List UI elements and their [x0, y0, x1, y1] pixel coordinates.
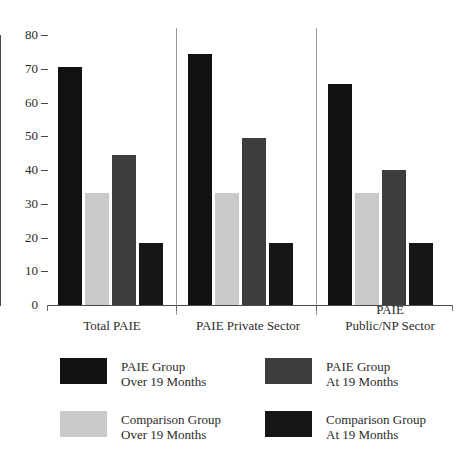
bar	[242, 138, 266, 305]
x-axis-tick-1	[176, 305, 177, 311]
bar	[355, 193, 379, 305]
category-label-paie-private-sector: PAIE Private Sector	[186, 318, 310, 334]
legend-swatch-paie-group-at-19-months	[265, 358, 312, 384]
bar	[215, 193, 239, 305]
legend-item-comparison-group-at-19-months: Comparison Group At 19 Months	[265, 411, 426, 442]
bars-layer	[0, 0, 468, 305]
bar	[382, 170, 406, 305]
bar	[409, 243, 433, 305]
bar	[85, 193, 109, 305]
chart-legend: PAIE Group Over 19 Months PAIE Group At …	[60, 358, 460, 454]
legend-label-paie-group-over-19-months: PAIE Group Over 19 Months	[121, 358, 206, 389]
legend-label-comparison-group-at-19-months: Comparison Group At 19 Months	[326, 411, 426, 442]
legend-item-paie-group-over-19-months: PAIE Group Over 19 Months	[60, 358, 206, 389]
legend-label-paie-group-at-19-months: PAIE Group At 19 Months	[326, 358, 398, 389]
legend-label-comparison-group-over-19-months: Comparison Group Over 19 Months	[121, 411, 221, 442]
bar	[58, 67, 82, 305]
bar	[112, 155, 136, 305]
x-axis-tick-2	[316, 305, 317, 311]
bar	[139, 243, 163, 305]
x-axis-tick-start	[47, 305, 48, 311]
legend-swatch-comparison-group-at-19-months	[265, 411, 312, 437]
bar	[328, 84, 352, 305]
legend-swatch-paie-group-over-19-months	[60, 358, 107, 384]
category-label-paie-public-np-sector: PAIE Public/NP Sector	[326, 302, 454, 334]
bar	[188, 54, 212, 305]
bar	[269, 243, 293, 305]
bar-chart-figure: 80706050403020100 Total PAIE PAIE Privat…	[0, 0, 468, 458]
legend-item-paie-group-at-19-months: PAIE Group At 19 Months	[265, 358, 398, 389]
legend-item-comparison-group-over-19-months: Comparison Group Over 19 Months	[60, 411, 221, 442]
legend-swatch-comparison-group-over-19-months	[60, 411, 107, 437]
category-label-total-paie: Total PAIE	[56, 318, 168, 334]
